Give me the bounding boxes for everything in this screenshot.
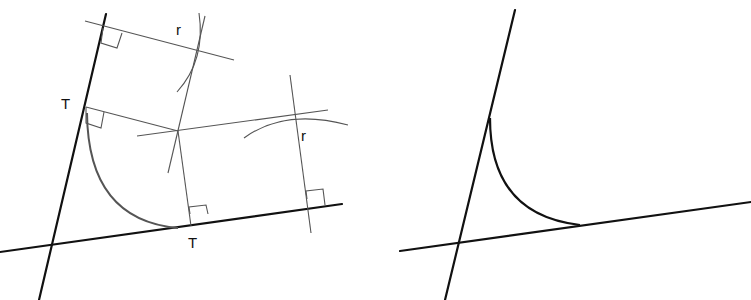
label-radius-right: r [301,127,306,144]
tangent-arc-diagram: T T r r [0,0,751,300]
parallel-line-b [137,110,328,136]
line-a [39,14,106,300]
label-radius-top: r [176,21,181,38]
line-b-result [400,202,751,251]
right-angle-mark [101,28,122,48]
line-a-result [445,10,515,300]
fillet-arc-result [490,118,580,225]
result-diagram [400,10,751,300]
label-tangent-left: T [61,95,70,112]
right-angle-mark [189,205,208,214]
construction-diagram: T T r r [0,13,348,300]
fillet-arc [87,113,178,228]
perpendicular-top [85,21,234,60]
right-angle-mark [306,189,325,205]
label-tangent-bottom: T [188,234,197,251]
radius-line-bottom [178,131,191,226]
right-angle-mark [86,107,104,128]
